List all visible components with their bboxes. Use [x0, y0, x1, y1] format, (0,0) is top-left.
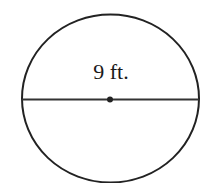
diameter-label: 9 ft.	[93, 59, 128, 84]
circle-diagram: 9 ft.	[0, 0, 215, 183]
center-point	[107, 97, 113, 103]
